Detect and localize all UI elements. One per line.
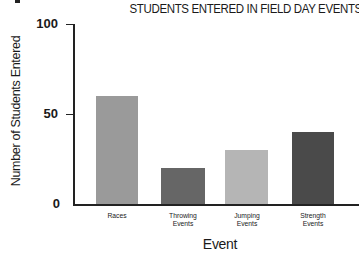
y-tick-label: 0 [30,196,60,211]
x-axis-line [73,204,359,206]
x-tick-label: Races [90,212,144,220]
y-tick-mark [66,24,73,25]
x-tick-label: ThrowingEvents [156,212,210,228]
x-tick-label-line: Events [286,220,340,228]
y-tick-label: 100 [28,16,58,31]
x-tick-label-line: Events [156,220,210,228]
y-axis-line [73,24,75,205]
x-tick-label: JumpingEvents [220,212,274,228]
x-axis-label: Event [170,236,270,252]
x-tick-label: StrengthEvents [286,212,340,228]
y-tick-label: 50 [28,106,58,121]
bar-races [96,96,138,204]
bar-throwing-events [161,168,205,204]
x-tick-label-line: Events [220,220,274,228]
cropped-mark [15,0,20,3]
y-axis-label: Number of Students Entered [9,36,23,187]
chart-title: STUDENTS ENTERED IN FIELD DAY EVENTS [130,2,350,16]
bar-strength-events [292,132,334,204]
y-tick-mark [66,114,73,115]
bar-jumping-events [225,150,268,204]
x-tick-label-line: Races [90,212,144,220]
